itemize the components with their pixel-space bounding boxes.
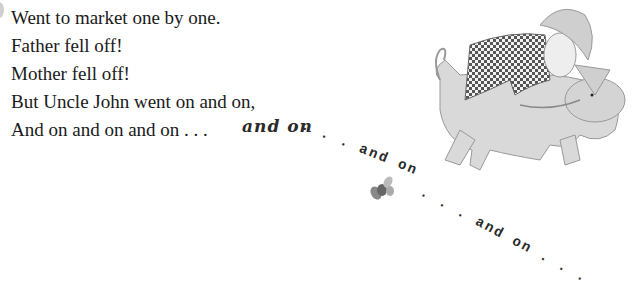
verse-line: Went to market one by one. — [11, 4, 255, 32]
verse-line: And on and on and on . . . — [11, 116, 255, 144]
bee-icon — [366, 173, 396, 203]
verse-line: Mother fell off! — [11, 60, 255, 88]
verse-line: But Uncle John went on and on, — [11, 88, 255, 116]
page-edge-decoration — [0, 2, 4, 18]
verse-text: Went to market one by one. Father fell o… — [11, 4, 255, 144]
verse-line: Father fell off! — [11, 32, 255, 60]
pig-rider-illustration — [400, 0, 641, 200]
